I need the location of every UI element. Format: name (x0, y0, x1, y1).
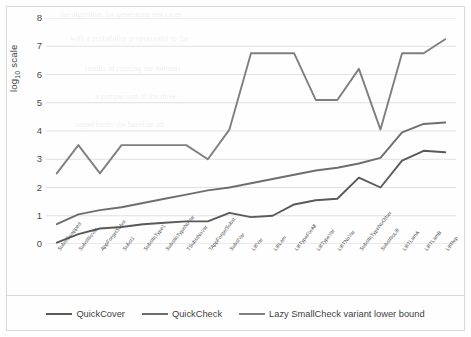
legend-label: Lazy SmallCheck variant lower bound (269, 309, 425, 319)
chart-legend: QuickCoverQuickCheckLazy SmallCheck vari… (6, 300, 465, 328)
legend-line-swatch (239, 313, 265, 315)
legend-line-swatch (46, 313, 72, 315)
y-axis-tick-label: 3 (22, 154, 42, 164)
y-axis-tick-label: 7 (22, 41, 42, 51)
y-axis-ticks: 012345678 (18, 18, 42, 244)
y-axis-tick-label: 2 (22, 183, 42, 193)
series-line (57, 39, 445, 173)
chart-figure: the algorithm for generating test cases … (0, 0, 471, 337)
y-axis-tick-label: 0 (22, 239, 42, 249)
y-axis-tick-label: 4 (22, 126, 42, 136)
legend-line-swatch (142, 313, 168, 315)
legend-entry[interactable]: Lazy SmallCheck variant lower bound (239, 309, 425, 319)
y-axis-tick-label: 8 (22, 13, 42, 23)
legend-entry[interactable]: QuickCover (46, 309, 125, 319)
legend-entry[interactable]: QuickCheck (142, 309, 222, 319)
plot-area (46, 18, 456, 244)
y-axis-tick-label: 6 (22, 70, 42, 80)
legend-label: QuickCheck (172, 309, 222, 319)
legend-label: QuickCover (76, 309, 125, 319)
x-axis-ticks: SubstSwappedSubstNoVarAppForgetSubstSubs… (46, 248, 456, 294)
y-axis-tick-label: 5 (22, 98, 42, 108)
plot-svg (46, 18, 456, 244)
y-axis-tick-label: 1 (22, 211, 42, 221)
